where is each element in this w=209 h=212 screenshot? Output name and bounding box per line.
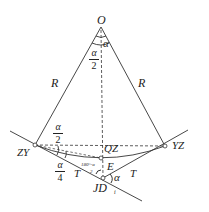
tangent-left-line: [10, 131, 142, 201]
point-jd: [101, 176, 105, 180]
label-tangent-left: T: [74, 168, 80, 179]
angle-arc-zy-half: [57, 146, 59, 155]
label-zy: ZY: [17, 147, 29, 158]
angle-arc-zy-quarter: [65, 151, 66, 158]
label-e: E: [107, 161, 114, 172]
label-angle-jd: 180°-α: [81, 162, 95, 167]
label-radius-right: R: [138, 77, 145, 89]
label-radius-left: R: [51, 77, 58, 89]
point-qz: [99, 156, 103, 160]
point-yz: [163, 144, 167, 148]
label-half-angle-center: α2: [89, 48, 99, 71]
point-zy: [33, 143, 37, 147]
label-qz: QZ: [104, 143, 118, 154]
angle-arc-jd-interior: [96, 170, 101, 174]
label-center-o: O: [97, 14, 106, 26]
label-jd-subscript: i: [114, 189, 116, 195]
label-jd: JD: [93, 182, 107, 194]
label-angle-center: α: [103, 38, 109, 49]
label-half-angle-zy: α2: [53, 122, 63, 145]
label-quarter-angle: α4: [55, 160, 65, 183]
label-tangent-right: T: [130, 168, 136, 179]
radius-right-line: [101, 27, 165, 146]
radius-left-line: [35, 27, 101, 145]
label-deflection-angle: α: [114, 172, 120, 183]
label-angle-jd-den: 2: [90, 169, 93, 174]
chord-dashed-line: [35, 145, 165, 146]
angle-arc-jd: [110, 174, 112, 183]
label-yz: YZ: [172, 140, 184, 151]
zy-qz-dashed-line: [35, 145, 101, 158]
